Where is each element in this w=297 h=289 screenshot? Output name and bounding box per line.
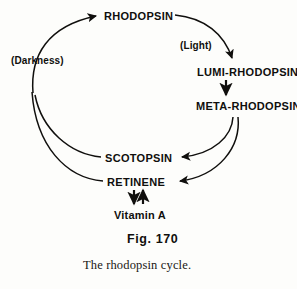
figure-caption: The rhodopsin cycle.	[83, 258, 191, 273]
edge-rhodopsin-to-lumi	[175, 15, 232, 58]
node-retinene: RETINENE	[107, 176, 165, 188]
label-light: (Light)	[180, 40, 212, 51]
node-vitamin-a: Vitamin A	[114, 209, 166, 221]
edge-meta-to-scotopsin	[182, 117, 233, 157]
node-rhodopsin: RHODOPSIN	[104, 10, 173, 22]
label-darkness: (Darkness)	[11, 55, 64, 66]
node-lumi-rhodopsin: LUMI-RHODOPSIN	[197, 66, 297, 78]
edge-retinene-to-rhodopsin	[32, 92, 103, 181]
node-scotopsin: SCOTOPSIN	[105, 152, 172, 164]
node-meta-rhodopsin: META-RHODOPSIN	[196, 100, 297, 112]
figure-number: Fig. 170	[127, 232, 178, 246]
edge-scotopsin-to-rhodopsin	[35, 95, 101, 157]
